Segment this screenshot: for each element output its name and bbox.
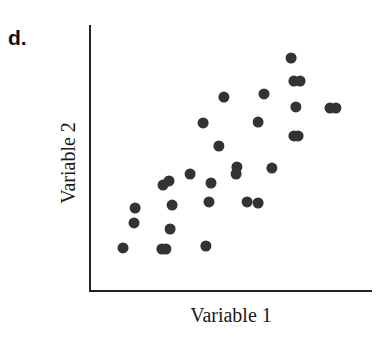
data-point: [129, 217, 140, 228]
data-point: [118, 242, 129, 253]
data-point: [165, 224, 176, 235]
data-point: [185, 169, 196, 180]
data-point: [198, 117, 209, 128]
data-point: [290, 101, 301, 112]
data-point: [242, 196, 253, 207]
x-axis-label: Variable 1: [90, 304, 372, 327]
data-point: [204, 196, 215, 207]
data-point: [286, 53, 297, 64]
data-point: [259, 88, 270, 99]
data-point: [295, 76, 306, 87]
data-point: [167, 200, 178, 211]
data-point: [253, 198, 264, 209]
y-axis-label: Variable 2: [57, 122, 80, 204]
data-point: [330, 103, 341, 114]
data-point: [253, 117, 264, 128]
data-point: [160, 244, 171, 255]
data-point: [130, 203, 141, 214]
data-point: [218, 92, 229, 103]
data-point: [231, 169, 242, 180]
data-point: [293, 130, 304, 141]
data-point: [164, 175, 175, 186]
data-point: [206, 178, 217, 189]
data-point: [213, 141, 224, 152]
data-point: [200, 241, 211, 252]
data-point: [266, 163, 277, 174]
data-points: [118, 53, 342, 255]
